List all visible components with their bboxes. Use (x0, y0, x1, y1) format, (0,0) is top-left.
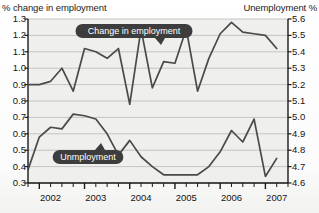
x-axis-labels: 200220032004200520062007 (0, 0, 319, 213)
chart-figure: % change in employment Unemployment % Ch… (0, 0, 319, 213)
x-tick-label: 2005 (166, 192, 206, 203)
x-tick-label: 2004 (121, 192, 161, 203)
x-tick-label: 2006 (211, 192, 251, 203)
x-tick-label: 2002 (31, 192, 71, 203)
x-tick-label: 2007 (257, 192, 297, 203)
x-tick-label: 2003 (76, 192, 116, 203)
